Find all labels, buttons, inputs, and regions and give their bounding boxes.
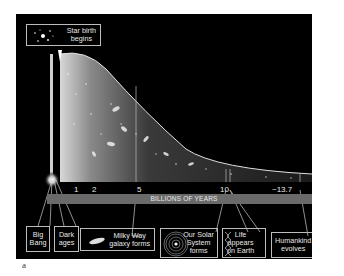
- universe-volume: [60, 53, 312, 182]
- tick-2: 2: [92, 185, 96, 194]
- event-life: Life appears on Earth: [222, 228, 266, 258]
- tick-13-7: ~13.7: [272, 185, 292, 194]
- star-cluster-icon: [30, 27, 56, 45]
- figure-caption: a: [22, 260, 26, 270]
- timeline-panel: BILLIONS OF YEARS 1 2 5 10 ~13.7 Star bi…: [16, 14, 312, 259]
- event-milky-way: Milky Way galaxy forms: [80, 228, 155, 251]
- universe-expansion-graphic: [16, 14, 312, 259]
- event-star-birth: Star birth begins: [26, 24, 101, 46]
- axis-bar: BILLIONS OF YEARS: [47, 194, 312, 204]
- event-big-bang: Big Bang: [26, 226, 50, 252]
- event-solar-system: Our Solar System forms: [160, 228, 218, 258]
- event-dark-ages: Dark ages: [54, 226, 79, 252]
- axis-label: BILLIONS OF YEARS: [47, 195, 312, 202]
- big-bang-beam: [50, 54, 53, 182]
- tick-5: 5: [137, 185, 141, 194]
- dna-icon: [223, 232, 233, 256]
- tick-1: 1: [74, 185, 78, 194]
- tick-10: 10: [220, 185, 229, 194]
- solar-system-icon: [163, 231, 189, 257]
- galaxy-icon: [87, 236, 107, 246]
- event-humankind: Humankind evolves: [271, 232, 312, 258]
